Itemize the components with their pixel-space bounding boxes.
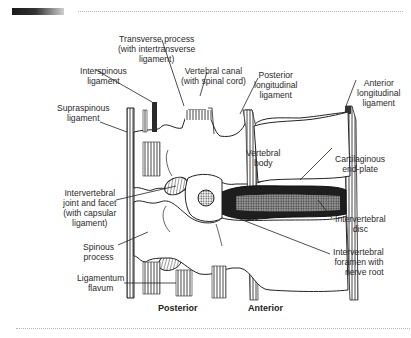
label-cartilaginous-endplate: Cartilaginous end-plate: [335, 154, 385, 174]
label-anterior-longitudinal-ligament: Anterior longitudinal ligament: [357, 78, 400, 108]
label-vertebral-canal: Vertebral canal (with spinal cord): [181, 66, 246, 86]
supraspinous-ligament-shape: [127, 108, 134, 298]
label-intervertebral-disc: Intervertebral disc: [335, 214, 386, 234]
label-posterior-longitudinal-ligament: Posterior longitudinal ligament: [254, 70, 297, 100]
label-posterior: Posterior: [158, 303, 198, 313]
label-vertebral-body: Vertebral body: [246, 148, 280, 168]
label-intervertebral-foramen: Intervertebral foramen with nerve root: [333, 247, 384, 277]
label-transverse-process: Transverse process (with intertransverse…: [118, 34, 195, 64]
label-ligamentum-flavum: Ligamentum flavum: [77, 273, 124, 293]
label-spinous-process: Spinous process: [83, 242, 114, 262]
ligamentum-flavum-shape: [143, 262, 160, 294]
label-anterior: Anterior: [248, 303, 283, 313]
label-supraspinous-ligament: Supraspinous ligament: [57, 103, 110, 123]
label-interspinous-ligament: Interspinous ligament: [80, 66, 127, 86]
label-intervertebral-joint-facet: Intervertebral joint and facet (with cap…: [63, 188, 117, 228]
nerve-root-shape: [198, 190, 214, 206]
